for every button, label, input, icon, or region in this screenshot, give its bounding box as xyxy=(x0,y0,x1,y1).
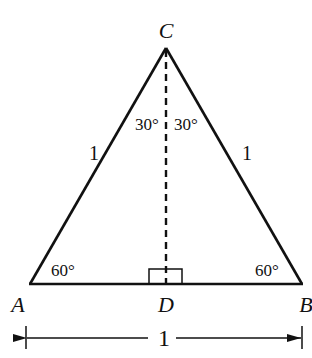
angle-label-acd: 30° xyxy=(135,115,159,134)
angle-label-b: 60° xyxy=(255,261,279,280)
side-label-bc: 1 xyxy=(242,142,252,164)
angle-label-a: 60° xyxy=(51,261,75,280)
vertex-label-d: D xyxy=(157,292,174,317)
side-ac xyxy=(30,48,166,284)
side-label-ac: 1 xyxy=(89,142,99,164)
equilateral-triangle-diagram: C A D B 1 1 30° 30° 60° 60° 1 xyxy=(0,0,312,358)
vertex-label-a: A xyxy=(9,292,25,317)
vertex-label-c: C xyxy=(159,18,174,43)
vertex-label-b: B xyxy=(299,292,312,317)
angle-label-bcd: 30° xyxy=(174,115,198,134)
side-bc xyxy=(166,48,302,284)
dimension-label-ab: 1 xyxy=(158,325,170,351)
